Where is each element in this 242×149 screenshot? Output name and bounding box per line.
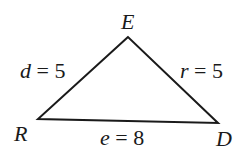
triangle-diagram: E R D d = 5 r = 5 e = 8 [0,0,242,149]
vertex-label-d: D [216,128,232,149]
side-value-r: = 5 [189,58,223,83]
side-var-d: d [20,58,31,83]
side-label-r: r = 5 [180,60,223,82]
side-label-e: e = 8 [100,127,144,149]
vertex-label-e: E [121,11,134,33]
side-label-d: d = 5 [20,60,65,82]
side-value-d: = 5 [31,58,65,83]
side-value-e: = 8 [110,125,144,149]
side-var-r: r [180,58,189,83]
side-var-e: e [100,125,110,149]
vertex-label-r: R [14,123,27,145]
